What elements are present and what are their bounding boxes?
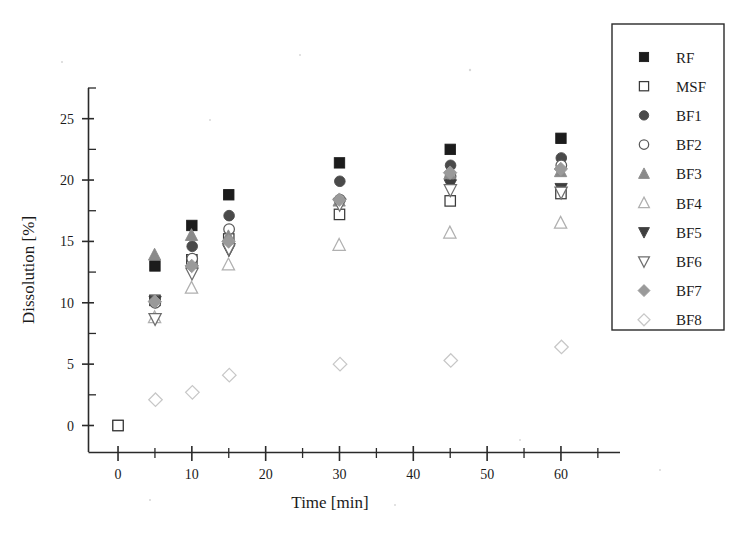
legend-label-bf4: BF4 (676, 196, 702, 212)
legend-marker-rf-icon (639, 52, 648, 61)
scan-noise (61, 54, 661, 506)
data-point (444, 185, 456, 197)
data-point (335, 176, 346, 187)
data-point (150, 261, 160, 271)
data-point (113, 420, 123, 430)
series-bf5 (149, 180, 567, 308)
data-point (554, 216, 566, 228)
data-point (186, 386, 200, 400)
x-tick-label: 50 (480, 467, 494, 482)
series-bf8 (149, 340, 569, 406)
data-point (224, 190, 234, 200)
legend-label-bf3: BF3 (676, 166, 702, 182)
series-bf7 (148, 162, 568, 308)
data-point (555, 340, 569, 354)
x-tick-label: 0 (115, 467, 122, 482)
y-tick-label: 10 (60, 296, 74, 311)
x-tick-label: 60 (554, 467, 568, 482)
legend-label-bf7: BF7 (676, 283, 702, 299)
data-point (187, 241, 198, 252)
data-point (444, 354, 458, 368)
legend-label-bf2: BF2 (676, 137, 702, 153)
series-bf3 (148, 165, 566, 260)
legend-border (612, 24, 724, 330)
data-point (444, 226, 456, 238)
series-bf6 (149, 185, 567, 326)
data-point (149, 393, 163, 407)
series-bf1 (150, 153, 567, 307)
x-tick-label: 10 (185, 467, 199, 482)
y-tick-label: 5 (67, 357, 74, 372)
x-axis-ticks: 0102030405060 (115, 446, 568, 482)
y-tick-label: 25 (60, 112, 74, 127)
dissolution-scatter-chart: 0510152025 0102030405060 Dissolution [%]… (0, 0, 739, 536)
legend-marker-bf1-icon (639, 111, 648, 120)
legend-marker-msf-icon (639, 82, 648, 91)
data-point (333, 357, 347, 371)
y-tick-label: 0 (67, 419, 74, 434)
data-point (556, 133, 566, 143)
data-point (222, 258, 234, 270)
series-msf (113, 188, 566, 430)
legend-label-bf8: BF8 (676, 312, 702, 328)
y-tick-label: 15 (60, 234, 74, 249)
x-tick-label: 40 (406, 467, 420, 482)
plot-axes (89, 88, 621, 453)
x-tick-label: 30 (332, 467, 346, 482)
data-point (223, 368, 237, 382)
data-point (185, 281, 197, 293)
legend-label-msf: MSF (676, 79, 706, 95)
legend-label-bf1: BF1 (676, 108, 702, 124)
series-bf2 (150, 160, 567, 308)
y-tick-label: 20 (60, 173, 74, 188)
legend-label-bf5: BF5 (676, 225, 702, 241)
data-points-layer (113, 133, 568, 431)
legend-marker-bf2-icon (639, 140, 648, 149)
x-tick-label: 20 (259, 467, 273, 482)
legend-label-bf6: BF6 (676, 254, 702, 270)
y-axis-title: Dissolution [%] (19, 216, 38, 324)
legend-label-rf: RF (676, 50, 694, 66)
legend: RFMSFBF1BF2BF3BF4BF5BF6BF7BF8 (612, 24, 724, 330)
data-point (445, 144, 455, 154)
x-axis-title: Time [min] (291, 493, 368, 512)
data-point (333, 238, 345, 250)
data-point (224, 210, 235, 221)
data-point (334, 158, 344, 168)
data-point (148, 248, 160, 260)
series-bf4 (148, 216, 566, 322)
